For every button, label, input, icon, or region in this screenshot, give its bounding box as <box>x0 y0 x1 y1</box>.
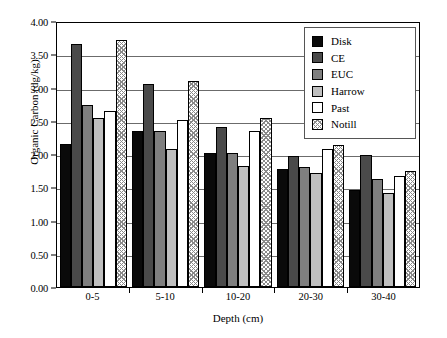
bar-group <box>57 23 129 287</box>
x-tick-label: 5-10 <box>129 291 202 309</box>
bar-disk-0-5 <box>60 144 71 287</box>
bar-past-30-40 <box>394 176 405 287</box>
x-tick-label: 0-5 <box>56 291 129 309</box>
legend-swatch-past-icon <box>312 102 323 113</box>
y-axis-label: Organic Carbon (dg/kg) <box>28 2 40 222</box>
bar-ce-20-30 <box>288 156 299 287</box>
bar-ce-5-10 <box>143 84 154 287</box>
legend-swatch-notill-icon <box>312 119 323 130</box>
legend-item-euc[interactable]: EUC <box>312 66 409 83</box>
legend-item-past[interactable]: Past <box>312 99 409 116</box>
bar-euc-20-30 <box>299 167 310 287</box>
bar-past-20-30 <box>322 149 333 287</box>
legend-item-disk[interactable]: Disk <box>312 33 409 50</box>
bar-notill-20-30 <box>333 145 344 287</box>
legend-item-notill[interactable]: Notill <box>312 116 409 133</box>
bar-disk-5-10 <box>132 131 143 287</box>
legend-label: CE <box>331 52 345 64</box>
bar-euc-10-20 <box>227 153 238 287</box>
legend-label: Notill <box>331 118 357 130</box>
legend-label: Disk <box>331 35 352 47</box>
x-tick-label: 10-20 <box>202 291 275 309</box>
x-tick-label: 20-30 <box>274 291 347 309</box>
x-tick-label: 30-40 <box>347 291 420 309</box>
legend: DiskCEEUCHarrowPastNotill <box>304 27 416 139</box>
bar-notill-30-40 <box>405 171 416 287</box>
bar-ce-30-40 <box>360 155 371 287</box>
bar-ce-0-5 <box>71 44 82 287</box>
bar-euc-0-5 <box>82 105 93 287</box>
legend-label: EUC <box>331 68 353 80</box>
y-tick-label: 0.00 <box>30 283 48 294</box>
bar-disk-30-40 <box>349 190 360 287</box>
bar-notill-10-20 <box>260 118 271 287</box>
legend-label: Past <box>331 102 349 114</box>
legend-swatch-disk-icon <box>312 36 323 47</box>
legend-swatch-harrow-icon <box>312 86 323 97</box>
legend-swatch-ce-icon <box>312 52 323 63</box>
legend-label: Harrow <box>331 85 365 97</box>
legend-item-harrow[interactable]: Harrow <box>312 83 409 100</box>
bar-group <box>202 23 274 287</box>
bar-ce-10-20 <box>216 127 227 287</box>
bar-past-10-20 <box>249 131 260 287</box>
bar-harrow-30-40 <box>383 193 394 287</box>
bar-harrow-5-10 <box>166 149 177 287</box>
organic-carbon-bar-chart: 0.000.501.001.502.002.503.003.504.00 Org… <box>0 0 447 338</box>
x-axis-label: Depth (cm) <box>56 312 420 324</box>
legend-swatch-euc-icon <box>312 69 323 80</box>
bar-notill-0-5 <box>116 40 127 287</box>
bar-harrow-0-5 <box>93 118 104 287</box>
bar-disk-10-20 <box>204 153 215 287</box>
bar-harrow-20-30 <box>310 173 321 287</box>
bar-euc-30-40 <box>372 179 383 287</box>
bar-past-0-5 <box>104 111 115 287</box>
x-axis-tick-labels: 0-55-1010-2020-3030-40 <box>56 291 420 309</box>
bar-notill-5-10 <box>188 81 199 287</box>
bar-group <box>129 23 201 287</box>
bar-disk-20-30 <box>277 169 288 287</box>
bar-harrow-10-20 <box>238 166 249 287</box>
bar-euc-5-10 <box>154 131 165 287</box>
bar-past-5-10 <box>177 120 188 287</box>
y-tick-label: 0.50 <box>30 249 48 260</box>
legend-item-ce[interactable]: CE <box>312 50 409 67</box>
